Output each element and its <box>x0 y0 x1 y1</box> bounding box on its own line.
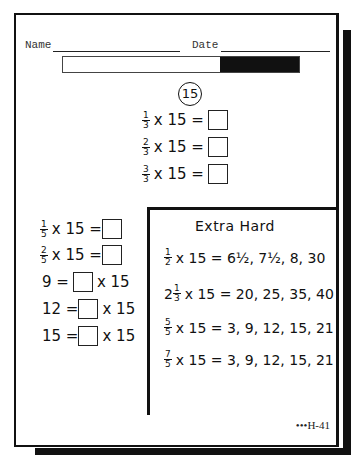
answer-box[interactable] <box>102 219 122 239</box>
left-problem-1: 15 x 15 = <box>40 219 122 239</box>
main-problem-1: 13 x 15 = <box>142 110 228 130</box>
fraction: 13 <box>173 284 181 303</box>
date-field[interactable] <box>221 51 330 52</box>
problem-text: x 15 = <box>154 111 204 129</box>
problem-lhs: 9 = <box>42 273 69 291</box>
reverse-problem-3: 15 = x 15 <box>42 326 135 346</box>
left-problem-2: 25 x 15 = <box>40 245 122 265</box>
problem-rhs: x 15 <box>102 300 135 318</box>
problem-text[interactable]: x 15 = 3, 9, 12, 15, 21 <box>176 352 334 368</box>
fraction: 33 <box>142 165 150 184</box>
name-label: Name <box>25 39 51 51</box>
section-number-badge: 15 <box>178 82 202 106</box>
header-row: Name Date <box>25 39 330 55</box>
problem-text: x 15 = <box>52 246 102 264</box>
answer-box[interactable] <box>208 137 228 157</box>
problem-rhs: x 15 <box>97 273 130 291</box>
extra-hard-problem-2: 2 13 x 15 = 20, 25, 35, 40 <box>164 284 334 303</box>
main-problem-3: 33 x 15 = <box>142 164 228 184</box>
problem-rhs: x 15 <box>102 327 135 345</box>
extra-hard-problem-4: 75 x 15 = 3, 9, 12, 15, 21 <box>164 350 334 369</box>
problem-text: x 15 = <box>154 138 204 156</box>
date-label: Date <box>192 39 218 51</box>
problem-text[interactable]: x 15 = 3, 9, 12, 15, 21 <box>176 320 334 336</box>
fraction: 55 <box>164 318 172 337</box>
reverse-problem-1: 9 = x 15 <box>42 272 130 292</box>
whole-number: 2 <box>164 286 173 302</box>
answer-box[interactable] <box>73 272 93 292</box>
fraction: 12 <box>164 248 172 267</box>
fraction: 13 <box>142 111 150 130</box>
fraction: 23 <box>142 138 150 157</box>
answer-box[interactable] <box>78 326 98 346</box>
problem-text[interactable]: x 15 = 20, 25, 35, 40 <box>185 286 334 302</box>
problem-text: x 15 = <box>154 165 204 183</box>
fraction: 75 <box>164 350 172 369</box>
extra-hard-section: Extra Hard 12 x 15 = 6½, 7½, 8, 30 2 13 … <box>147 207 338 415</box>
extra-hard-problem-1: 12 x 15 = 6½, 7½, 8, 30 <box>164 248 325 267</box>
answer-box[interactable] <box>102 245 122 265</box>
answer-box[interactable] <box>208 164 228 184</box>
worksheet-page: Name Date 15 13 x 15 = 23 x 15 = 33 x 15… <box>14 13 339 447</box>
answer-box[interactable] <box>208 110 228 130</box>
name-field[interactable] <box>53 51 180 52</box>
problem-text[interactable]: x 15 = 6½, 7½, 8, 30 <box>176 250 326 266</box>
reverse-problem-2: 12 = x 15 <box>42 299 135 319</box>
problem-text: x 15 = <box>52 220 102 238</box>
extra-hard-problem-3: 55 x 15 = 3, 9, 12, 15, 21 <box>164 318 334 337</box>
progress-fill <box>220 57 299 72</box>
main-problem-2: 23 x 15 = <box>142 137 228 157</box>
extra-hard-title: Extra Hard <box>195 218 275 234</box>
fraction: 25 <box>40 246 48 265</box>
page-shadow-right <box>343 30 351 455</box>
progress-bar <box>62 56 300 73</box>
page-shadow-bottom <box>35 448 351 455</box>
problem-lhs: 15 = <box>42 327 78 345</box>
fraction: 15 <box>40 220 48 239</box>
page-code: •••H-41 <box>296 419 330 431</box>
answer-box[interactable] <box>78 299 98 319</box>
problem-lhs: 12 = <box>42 300 78 318</box>
